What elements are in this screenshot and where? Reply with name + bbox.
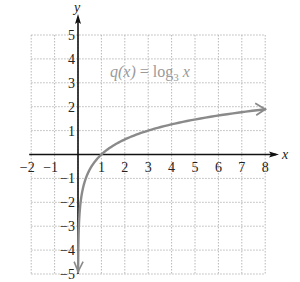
x-tick-label: 2: [121, 160, 128, 175]
y-tick-label: −5: [60, 267, 75, 282]
function-label: q(x) = log3 x: [110, 63, 190, 83]
y-tick-label: 4: [68, 52, 75, 67]
y-tick-label: −4: [60, 243, 75, 258]
x-tick-label: −1: [43, 160, 58, 175]
y-axis-label: y: [72, 0, 81, 15]
y-tick-label: 1: [68, 124, 75, 139]
y-tick-label: −3: [60, 219, 75, 234]
y-tick-label: −2: [60, 195, 75, 210]
log-function-graph: −2−112345678−5−4−3−2−112345 q(x) = log3 …: [0, 0, 300, 282]
x-tick-label: 7: [238, 160, 245, 175]
x-tick-label: 1: [98, 160, 105, 175]
x-tick-label: 6: [215, 160, 222, 175]
x-tick-label: −2: [20, 160, 35, 175]
x-tick-label: 8: [262, 160, 269, 175]
log-curve: [78, 109, 265, 272]
y-tick-label: 5: [68, 28, 75, 43]
x-tick-label: 5: [192, 160, 199, 175]
y-tick-label: 3: [68, 76, 75, 91]
x-tick-label: 3: [145, 160, 152, 175]
y-tick-label: −1: [60, 171, 75, 186]
x-tick-label: 4: [168, 160, 175, 175]
x-axis-label: x: [281, 147, 289, 162]
function-curve: [74, 103, 265, 272]
y-tick-label: 2: [68, 100, 75, 115]
